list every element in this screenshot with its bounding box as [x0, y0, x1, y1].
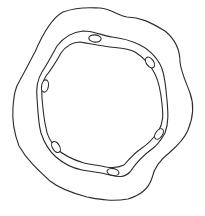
vascular-bundle-1: [89, 34, 102, 42]
cross-section-drawing: [0, 0, 205, 216]
vascular-bundle-4: [153, 127, 165, 141]
vascular-bundle-2: [144, 56, 157, 70]
outer-boundary: [13, 8, 193, 201]
vascular-bundle-3: [41, 79, 50, 92]
vascular-ring-outer: [37, 31, 168, 177]
cross-section-figure: stem cross-section line drawing: [0, 0, 205, 216]
